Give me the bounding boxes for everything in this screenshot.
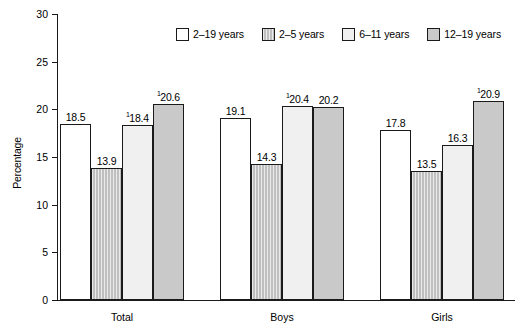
bar-boys-2-5-years[interactable]: 14.3	[251, 164, 282, 300]
bar-girls-12-19-years[interactable]: 120.9	[473, 101, 504, 300]
bar-total-6-11-years[interactable]: 118.4	[122, 125, 153, 300]
y-tick-25: 25	[0, 62, 58, 63]
y-tick-label-30: 30	[22, 9, 48, 19]
bar-total-12-19-years[interactable]: 120.6	[153, 104, 184, 300]
bar-value-label: 19.1	[226, 106, 246, 117]
bar-value-label: 120.6	[157, 92, 180, 103]
bar-value-label: 16.3	[448, 133, 468, 144]
bar-value-label: 13.9	[97, 156, 117, 167]
bar-group-boys: 19.114.3120.420.2	[220, 14, 344, 300]
bar-group-total: 18.513.9118.4120.6	[60, 14, 184, 300]
bar-value-label: 14.3	[257, 152, 277, 163]
y-tick-label-25: 25	[22, 57, 48, 67]
y-tick-0: 0	[0, 300, 58, 301]
bar-value-label: 13.5	[417, 159, 437, 170]
footnote-marker: 1	[126, 111, 130, 118]
bar-chart: 2–19 years 2–5 years 6–11 years 12–19 ye…	[0, 0, 524, 335]
bar-value-label: 120.9	[477, 89, 500, 100]
bar-value-label: 20.2	[319, 95, 339, 106]
bar-girls-2-19-years[interactable]: 17.8	[380, 130, 411, 300]
bar-total-2-19-years[interactable]: 18.5	[60, 124, 91, 300]
x-axis-label-girls: Girls	[380, 311, 504, 323]
bar-value-label: 17.8	[386, 118, 406, 129]
bar-boys-2-19-years[interactable]: 19.1	[220, 118, 251, 300]
footnote-marker: 1	[286, 92, 290, 99]
y-tick-label-5: 5	[22, 247, 48, 257]
bar-value-label: 118.4	[126, 113, 149, 124]
footnote-marker: 1	[477, 87, 481, 94]
bar-total-2-5-years[interactable]: 13.9	[91, 168, 122, 301]
bar-value-label: 120.4	[286, 94, 309, 105]
footnote-marker: 1	[157, 90, 161, 97]
y-tick-label-10: 10	[22, 200, 48, 210]
x-axis-label-total: Total	[60, 311, 184, 323]
y-tick-label-20: 20	[22, 104, 48, 114]
y-tick-5: 5	[0, 252, 58, 253]
x-axis-label-boys: Boys	[220, 311, 344, 323]
bar-boys-12-19-years[interactable]: 20.2	[313, 107, 344, 300]
y-tick-15: 15	[0, 157, 58, 158]
plot-area: 18.513.9118.4120.619.114.3120.420.217.81…	[58, 14, 515, 300]
y-tick-mark-0	[52, 300, 58, 301]
y-tick-20: 20	[0, 109, 58, 110]
bar-girls-2-5-years[interactable]: 13.5	[411, 171, 442, 300]
x-axis-line	[57, 300, 515, 301]
bar-value-label: 18.5	[66, 112, 86, 123]
bar-girls-6-11-years[interactable]: 16.3	[442, 145, 473, 300]
y-tick-30: 30	[0, 14, 58, 15]
bar-boys-6-11-years[interactable]: 120.4	[282, 106, 313, 300]
y-tick-label-0: 0	[22, 295, 48, 305]
y-tick-label-15: 15	[22, 152, 48, 162]
bar-group-girls: 17.813.516.3120.9	[380, 14, 504, 300]
y-axis-title: Percentage	[11, 103, 23, 223]
y-tick-10: 10	[0, 205, 58, 206]
